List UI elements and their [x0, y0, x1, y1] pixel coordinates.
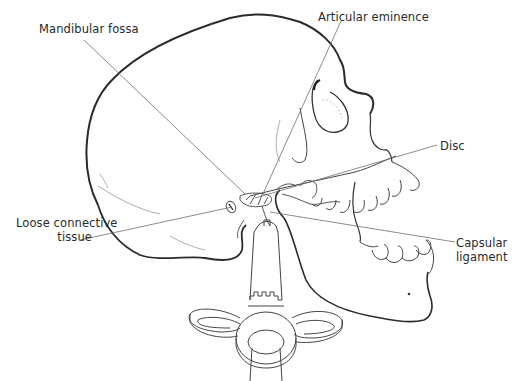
skull-illustration [0, 0, 520, 381]
label-capsular-ligament: Capsular ligament [456, 236, 508, 264]
occipital-base [98, 205, 246, 260]
mental-foramen [408, 293, 411, 296]
label-loose-connective-line1: Loose connective [16, 216, 112, 230]
label-disc: Disc [440, 139, 465, 153]
tmj-diagram: Mandibular fossa Articular eminence Disc… [0, 0, 520, 381]
leader-capsular-ligament [270, 212, 455, 242]
lower-teeth [360, 240, 434, 273]
tmj-detail [224, 184, 296, 238]
leader-articular-eminence [262, 21, 341, 196]
label-loose-connective-tissue: Loose connective tissue [16, 216, 112, 244]
leader-mandibular-fossa [84, 40, 245, 194]
zygomatic-arch [250, 156, 396, 196]
syringe [189, 220, 342, 381]
maxilla-outline [370, 114, 392, 162]
label-articular-eminence: Articular eminence [318, 10, 429, 24]
label-capsular-line2: ligament [456, 250, 508, 264]
label-loose-connective-line2: tissue [16, 230, 112, 244]
orbit [312, 80, 348, 132]
upper-teeth [312, 162, 419, 213]
leader-lines [80, 21, 455, 242]
label-capsular-line1: Capsular [456, 236, 508, 250]
label-mandibular-fossa: Mandibular fossa [39, 22, 139, 36]
